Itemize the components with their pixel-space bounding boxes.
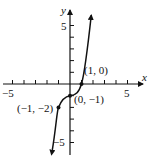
point-label-0-neg1: (0, −1) (74, 93, 104, 106)
x-tick-label-neg5: −5 (2, 87, 14, 99)
y-axis-label: y (60, 4, 66, 16)
x-axis-label: x (141, 71, 147, 83)
y-tick-label-neg5: −5 (53, 136, 65, 148)
x-tick-label-5: 5 (124, 87, 130, 99)
cubic-graph: y x −5 5 5 −5 (1, 0) (0, −1) (−1, −2) (0, 0, 149, 157)
point-label-1-0: (1, 0) (84, 64, 108, 77)
point-1-0 (80, 82, 84, 86)
point-label-neg1-neg2: (−1, −2) (17, 102, 54, 115)
point-neg1-neg2 (57, 105, 61, 109)
point-0-neg1 (68, 94, 72, 98)
y-tick-label-5: 5 (61, 20, 67, 32)
